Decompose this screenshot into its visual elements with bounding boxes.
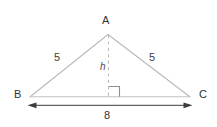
dimension-arrowhead-right [184,102,193,108]
side-length-label-ab: 5 [54,52,60,63]
dimension-arrowhead-left [28,102,37,108]
height-label-h: h [100,62,106,72]
vertex-label-b: B [14,89,21,100]
triangle-side-ac [108,35,190,97]
base-length-label: 8 [104,110,110,121]
geometry-figure: A B C 5 5 h 8 [0,0,217,127]
side-length-label-ac: 5 [149,52,155,63]
vertex-label-c: C [199,89,207,100]
right-angle-icon [109,87,120,97]
vertex-label-a: A [102,15,109,26]
triangle-side-ab [31,35,109,97]
